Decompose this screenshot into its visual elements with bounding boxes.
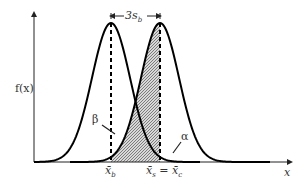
beta-pointer	[102, 125, 115, 134]
distribution-diagram: 3sb f(x) β α x̄b x̄s = x̄c x	[0, 0, 307, 188]
x-axis-label: x	[284, 166, 290, 179]
blank-mean-label: x̄b	[105, 164, 116, 179]
blank-distribution-curve	[34, 23, 200, 162]
separation-label: 3sb	[125, 9, 142, 24]
alpha-label: α	[181, 130, 188, 143]
beta-shaded-region	[111, 23, 160, 162]
y-axis-label: f(x)	[15, 82, 34, 95]
diagram-canvas	[0, 0, 307, 188]
sample-mean-label: x̄s = x̄c	[146, 164, 182, 179]
beta-label: β	[92, 113, 98, 126]
alpha-pointer	[173, 142, 181, 153]
